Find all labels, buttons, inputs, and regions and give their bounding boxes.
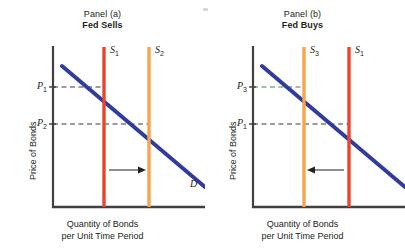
panel-a-x-axis-label: Quantity of Bonds per Unit Time Period [0, 219, 205, 242]
panel-b-demand-curve [262, 66, 405, 187]
panel-a: Panel (a) Fed Sells Price of Bonds [0, 0, 205, 251]
panel-a-demand-curve [62, 66, 205, 187]
panel-a-x-axis-label-line2: per Unit Time Period [0, 231, 205, 243]
panel-b-shift-arrow [307, 167, 344, 174]
panel-b-x-axis-label-line2: per Unit Time Period [200, 231, 405, 243]
panel-b-price3-label: P3 [237, 80, 247, 93]
panel-b-price1-label: P1 [237, 117, 247, 130]
panel-b-supply-s1-label: S1 [355, 44, 364, 57]
panel-a-price1-label: P1 [37, 80, 47, 93]
panel-a-supply-s1-label: S1 [110, 44, 119, 57]
open-market-operations-figure: Panel (a) Fed Sells Price of Bonds [0, 0, 405, 251]
panel-a-price2-label: P2 [37, 117, 47, 130]
panel-a-shift-arrow [109, 167, 146, 174]
panel-b-x-axis-label-line1: Quantity of Bonds [200, 219, 405, 231]
panel-a-demand-label: D [190, 178, 197, 189]
panel-a-supply-s2-label: S2 [155, 44, 164, 57]
panel-a-x-axis-label-line1: Quantity of Bonds [0, 219, 205, 231]
scan-artifact-speck [203, 8, 208, 11]
panel-b-x-axis-label: Quantity of Bonds per Unit Time Period [200, 219, 405, 242]
panel-a-plot [0, 0, 205, 251]
panel-b: Panel (b) Fed Buys Price of Bonds P3 P1 … [200, 0, 405, 251]
panel-b-plot [200, 0, 405, 251]
panel-b-supply-s3-label: S3 [310, 44, 319, 57]
